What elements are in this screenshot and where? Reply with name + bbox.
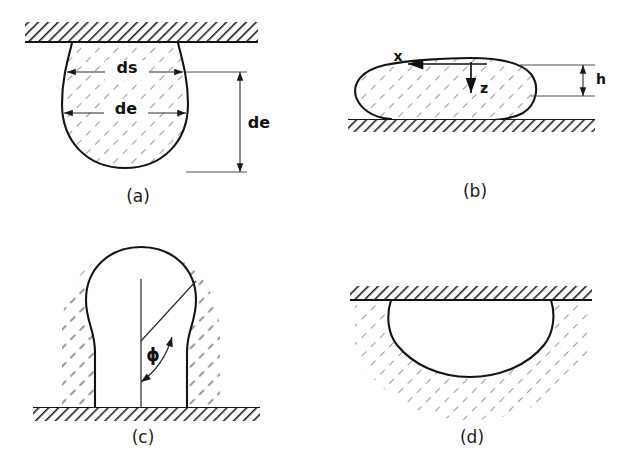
phi-label: ϕ bbox=[146, 345, 160, 365]
sessile-drop-fill bbox=[355, 58, 536, 120]
de-vertical-label: de bbox=[248, 113, 270, 132]
h-label: h bbox=[596, 71, 606, 87]
solid-ceiling-a bbox=[25, 22, 258, 42]
solid-floor-b bbox=[348, 120, 595, 132]
solid-ceiling-hatch-a bbox=[25, 22, 258, 42]
ds-label: ds bbox=[117, 58, 138, 77]
de-horizontal-label: de bbox=[115, 99, 137, 118]
solid-floor-hatch-b bbox=[348, 120, 595, 132]
panel-a-caption: (a) bbox=[126, 186, 150, 206]
solid-floor-hatch-c bbox=[33, 408, 260, 421]
panel-b-caption: (b) bbox=[463, 181, 487, 201]
solid-ceiling-hatch-d bbox=[350, 286, 592, 300]
z-axis-label: z bbox=[480, 80, 488, 96]
sessile-drop-shape bbox=[355, 58, 536, 120]
panel-d-caption: (d) bbox=[460, 427, 484, 447]
x-axis-label: x bbox=[393, 48, 402, 64]
panel-c-caption: (c) bbox=[132, 427, 155, 447]
solid-floor-c bbox=[33, 408, 260, 421]
figure-panel-container: ds de de (a) x bbox=[0, 0, 623, 463]
solid-ceiling-d bbox=[350, 286, 592, 300]
